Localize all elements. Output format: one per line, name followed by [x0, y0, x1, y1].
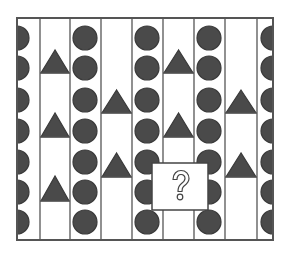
shape-layer — [5, 26, 285, 234]
question-box[interactable] — [152, 163, 208, 210]
circle-shape — [197, 56, 221, 80]
puzzle-figure: ? — [0, 0, 288, 254]
circle-shape — [135, 26, 159, 50]
circle-shape — [135, 56, 159, 80]
triangle-shape — [41, 113, 69, 137]
triangle-shape — [226, 90, 256, 113]
circle-shape — [73, 26, 97, 50]
triangle-shape — [102, 153, 131, 177]
circle-shape — [197, 210, 221, 234]
circle-shape — [197, 88, 221, 112]
triangle-shape — [164, 50, 193, 73]
triangle-shape — [164, 113, 193, 137]
circle-shape — [135, 210, 159, 234]
circle-shape — [73, 119, 97, 143]
circle-shape — [135, 119, 159, 143]
circle-shape — [73, 56, 97, 80]
circle-shape — [73, 88, 97, 112]
triangle-shape — [102, 90, 131, 113]
circle-shape — [135, 88, 159, 112]
triangle-shape — [41, 50, 69, 73]
circle-shape — [73, 150, 97, 174]
circle-shape — [73, 180, 97, 204]
circle-shape — [197, 26, 221, 50]
circle-shape — [73, 210, 97, 234]
triangle-shape — [41, 176, 69, 201]
pattern-grid — [0, 0, 288, 254]
circle-shape — [197, 119, 221, 143]
triangle-shape — [226, 153, 256, 177]
